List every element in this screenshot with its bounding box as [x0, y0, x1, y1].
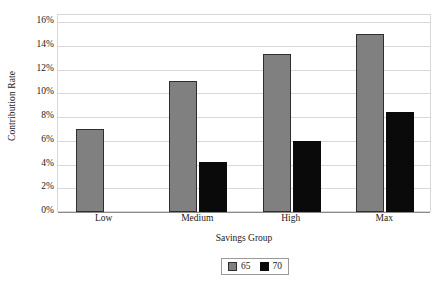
- x-tick-label: Max: [376, 214, 393, 224]
- y-tick-label: 6%: [20, 135, 54, 145]
- x-tick-label: Low: [95, 214, 112, 224]
- legend-label: 65: [241, 262, 251, 272]
- y-tick-label: 8%: [20, 111, 54, 121]
- y-axis-tick-labels: 0%2%4%6%8%10%12%14%16%: [14, 14, 54, 212]
- bar: [263, 54, 291, 212]
- black-swatch: [260, 262, 269, 271]
- bar-series-container: [58, 15, 430, 211]
- bar: [356, 34, 384, 212]
- gray-swatch: [228, 262, 237, 271]
- bar: [76, 129, 104, 212]
- bar: [293, 141, 321, 212]
- x-tick-label: Medium: [181, 214, 213, 224]
- y-tick-label: 2%: [20, 183, 54, 193]
- y-tick-label: 10%: [20, 88, 54, 98]
- bar: [199, 162, 227, 212]
- chart-legend: 6570: [221, 258, 289, 275]
- bar: [386, 112, 414, 212]
- legend-entry: 70: [260, 262, 283, 272]
- bar: [169, 81, 197, 212]
- chart-figure: Contribution Rate 0%2%4%6%8%10%12%14%16%…: [0, 0, 446, 284]
- y-tick-label: 16%: [20, 16, 54, 26]
- y-tick-label: 12%: [20, 64, 54, 74]
- y-tick-label: 4%: [20, 159, 54, 169]
- plot-area: [57, 14, 431, 212]
- axis-baseline: [58, 212, 430, 213]
- x-axis-tick-labels: LowMediumHighMax: [57, 214, 431, 230]
- legend-entry: 65: [228, 262, 251, 272]
- x-tick-label: High: [281, 214, 300, 224]
- legend-label: 70: [273, 262, 283, 272]
- y-tick-label: 0%: [20, 206, 54, 216]
- x-axis-title: Savings Group: [57, 233, 431, 243]
- y-tick-label: 14%: [20, 40, 54, 50]
